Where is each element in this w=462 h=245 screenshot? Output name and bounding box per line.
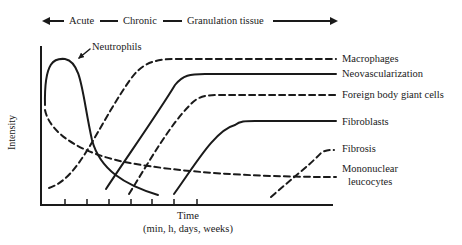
neutrophils-label: Neutrophils <box>92 41 142 53</box>
diagram-canvas <box>0 0 462 245</box>
label-neovascularization: Neovascularization <box>342 68 423 80</box>
y-axis-label: Intensity <box>6 115 17 150</box>
neutrophils-pointer-arrow <box>79 49 90 58</box>
x-axis-label: Time <box>118 210 258 221</box>
label-fibroblasts: Fibroblasts <box>342 116 389 128</box>
label-mononuclear: Mononuclear <box>342 163 398 175</box>
label-fibrosis: Fibrosis <box>342 143 376 155</box>
curve-fibrosis <box>271 150 334 197</box>
phase-granulation-label: Granulation tissue <box>184 15 267 26</box>
phase-chronic-label: Chronic <box>120 15 160 26</box>
label-leucocytes: leucocytes <box>348 176 392 188</box>
curve-fibroblasts <box>174 121 336 194</box>
phase-acute-label: Acute <box>66 15 97 26</box>
label-macrophages: Macrophages <box>342 53 399 65</box>
x-axis-units: (min, h, days, weeks) <box>118 223 258 234</box>
label-foreign-body-giant-cells: Foreign body giant cells <box>342 89 444 101</box>
